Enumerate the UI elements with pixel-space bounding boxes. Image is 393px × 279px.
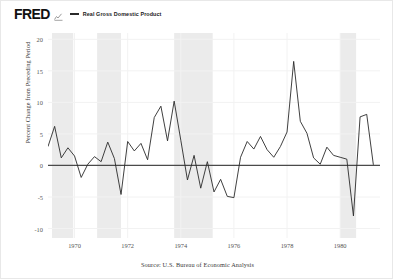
mini-line-chart-icon <box>54 7 63 25</box>
recession-bands <box>52 33 356 238</box>
x-tick-label: 1980 <box>334 242 347 249</box>
x-tick-label: 1976 <box>228 242 241 249</box>
x-tick-label: 1972 <box>121 242 134 249</box>
y-axis-title: Percent Change from Preceding Period <box>24 13 31 173</box>
plot-area <box>48 33 380 238</box>
legend-item-real-gdp[interactable]: Real Gross Domestic Product <box>70 11 162 17</box>
y-tick-label: -10 <box>21 225 43 232</box>
recession-band <box>52 33 73 238</box>
y-tick-label: -5 <box>21 194 43 201</box>
x-tick-label: 1978 <box>281 242 294 249</box>
fred-chart-card: FRED Real Gross Domestic Product 2015105… <box>0 0 393 279</box>
chart-svg <box>48 33 380 238</box>
source-note: Source: U.S. Bureau of Economic Analysis <box>1 261 393 268</box>
x-axis-tick-labels: 197019721974197619781980 <box>48 242 380 254</box>
x-tick-label: 1970 <box>68 242 81 249</box>
legend-label: Real Gross Domestic Product <box>83 11 162 17</box>
fred-logo: FRED <box>14 7 50 21</box>
chart-header: FRED Real Gross Domestic Product <box>1 1 393 27</box>
recession-band <box>97 33 121 238</box>
x-tick-label: 1974 <box>174 242 187 249</box>
legend-color-swatch <box>70 13 79 14</box>
